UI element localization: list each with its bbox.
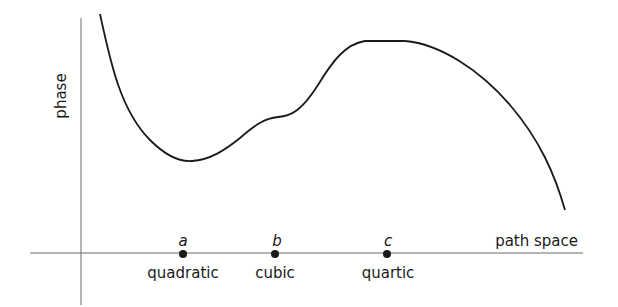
point-a-dot [179, 250, 187, 258]
point-a-letter: a [178, 232, 187, 250]
point-c-dot [383, 250, 391, 258]
point-b-label: cubic [255, 264, 295, 282]
point-b: b cubic [255, 232, 295, 282]
point-a-label: quadratic [147, 264, 218, 282]
point-c-letter: c [384, 232, 393, 250]
point-b-letter: b [272, 232, 282, 250]
phase-diagram: phase a quadratic b cubic c quartic path… [0, 0, 618, 307]
point-c-label: quartic [362, 264, 415, 282]
point-a: a quadratic [147, 232, 218, 282]
x-axis-label: path space [495, 232, 578, 250]
phase-curve [100, 14, 565, 210]
y-axis-label: phase [52, 73, 70, 118]
point-b-dot [271, 250, 279, 258]
point-c: c quartic [362, 232, 415, 282]
